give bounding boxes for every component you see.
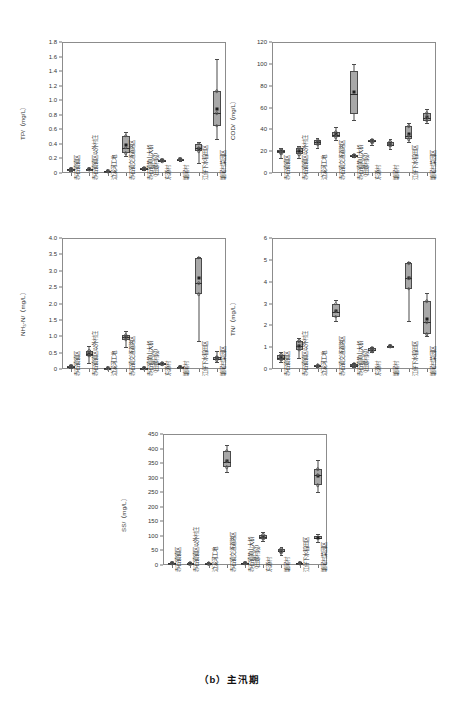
mean-marker [215,107,218,110]
data-point [179,157,183,161]
box-plot [140,0,148,707]
box-plot [67,0,75,707]
whisker-cap-lower [124,156,128,157]
data-point [124,134,128,138]
y-tick-mark [59,158,62,159]
x-tick-mark [126,173,127,176]
data-point [197,142,201,146]
data-point [215,90,219,94]
box-plot [104,0,112,707]
x-tick-mark [108,173,109,176]
whisker-cap-lower [215,139,219,140]
y-tick-mark [59,85,62,86]
y-tick-mark [59,173,62,174]
y-tick-label: 0 [32,170,57,176]
data-point [197,146,201,150]
y-tick-mark [59,129,62,130]
x-axis-label: 江仔下水稻田区 [202,145,208,180]
y-tick-mark [59,143,62,144]
y-tick-mark [59,56,62,57]
data-point [197,149,201,153]
data-point [215,124,219,128]
whisker-lower [216,126,217,139]
x-axis-label: 塘尾村菜园区 [220,150,226,180]
y-axis-title-tp: TP/（mg/L） [18,103,27,139]
x-axis-label: 赤石镇镇区 [74,155,80,180]
x-tick-mark [217,173,218,176]
x-axis-label: 塘尾村 [183,165,189,180]
panel-tp: 00.20.40.60.81.01.21.41.61.8TP/（mg/L）赤石镇… [0,0,459,707]
y-tick-label: 0.2 [32,155,57,161]
x-tick-mark [180,173,181,176]
y-tick-label: 1.8 [32,39,57,45]
data-point [124,152,128,156]
data-point [69,167,73,171]
y-tick-mark [59,71,62,72]
y-tick-label: 1.0 [32,97,57,103]
figure-caption: （b）主汛期 [0,672,459,686]
y-tick-label: 1.6 [32,54,57,60]
x-axis-label: 东源村 [165,165,171,180]
y-tick-label: 0.8 [32,112,57,118]
whisker-upper [216,59,217,92]
x-tick-mark [71,173,72,176]
y-tick-label: 0.4 [32,141,57,147]
whisker-cap-upper [124,132,128,133]
box-plot [213,0,221,707]
figure-root: 050100150200250300350400450SS/（mg/L）赤石镇镇… [0,0,459,707]
x-tick-mark [144,173,145,176]
x-tick-mark [89,173,90,176]
box-plot [177,0,185,707]
y-tick-label: 1.2 [32,83,57,89]
x-tick-mark [162,173,163,176]
x-axis-label: 赤石镇交通道路区 [129,140,135,180]
box-plot [86,0,94,707]
box-plot [158,0,166,707]
data-point [88,167,92,171]
x-tick-mark [199,173,200,176]
box-plot [122,0,130,707]
x-axis-label: 边溪河工地 [111,155,117,180]
x-axis-label: 赤石镇镇区以外村庄 [92,135,98,180]
y-tick-mark [59,100,62,101]
whisker-cap-lower [197,163,201,164]
y-tick-label: 1.4 [32,68,57,74]
data-point [160,158,164,162]
y-tick-label: 0.6 [32,126,57,132]
y-tick-mark [59,42,62,43]
data-point [124,146,128,150]
data-point [215,112,219,116]
y-tick-mark [59,114,62,115]
data-point [142,166,146,170]
whisker-cap-upper [215,59,219,60]
box-plot [195,0,203,707]
